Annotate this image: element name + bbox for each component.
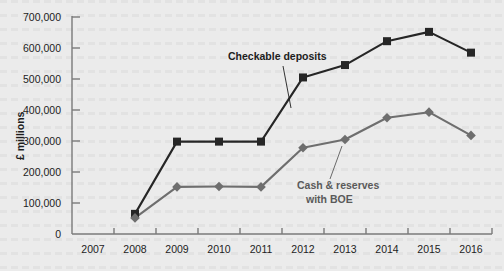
y-axis-tick-label: 600,000 [23,42,61,54]
y-axis-tick-label: 300,000 [23,135,61,147]
series-marker-diamond [424,107,434,117]
series-marker-square [383,37,391,45]
x-axis-tick-label: 2007 [81,243,105,255]
x-axis-tick-label: 2012 [291,243,315,255]
x-axis-tick-labels: 2007200820092010201120122013201420152016 [81,243,483,255]
series-marker-square [173,138,181,146]
series-marker-diamond [214,182,224,192]
annotation-label-cash-reserves-line2: with BOE [305,193,353,205]
x-axis-tick-label: 2009 [165,243,189,255]
line-chart: £ millions 0100,000200,000300,000400,000… [0,0,504,271]
annotation-label-checkable-deposits: Checkable deposits [228,50,327,62]
series-marker-square [215,138,223,146]
x-axis-tick-label: 2014 [375,243,399,255]
annotation-label-cash-reserves-line1: Cash & reserves [297,179,379,191]
series-marker-square [257,138,265,146]
series-marker-diamond [382,113,392,123]
series-marker-square [425,28,433,36]
x-axis-tick-label: 2011 [250,243,273,255]
annotation-leader-line [330,146,342,179]
y-axis-tick-label: 400,000 [23,104,61,116]
x-axis-tick-label: 2015 [417,243,441,255]
y-axis-tick-labels: 0100,000200,000300,000400,000500,000600,… [23,11,61,240]
y-axis-ticks [72,17,80,203]
y-axis-tick-label: 700,000 [23,11,61,23]
series-marker-diamond [466,131,476,141]
series-marker-diamond [340,135,350,145]
series-marker-square [467,49,475,57]
series-line-2 [135,112,471,218]
x-axis-tick-label: 2013 [333,243,357,255]
series-marker-square [341,61,349,69]
y-axis-tick-label: 500,000 [23,73,61,85]
series-marker-square [299,73,307,81]
x-axis-tick-label: 2008 [123,243,147,255]
y-axis-tick-label: 200,000 [23,166,61,178]
chart-container: £ millions 0100,000200,000300,000400,000… [0,0,504,271]
x-axis-tick-label: 2016 [459,243,483,255]
x-axis-tick-label: 2010 [207,243,231,255]
series-annotations: Checkable depositsCash & reserveswith BO… [228,50,379,205]
y-axis-tick-label: 100,000 [23,197,61,209]
x-axis-ticks [114,228,492,234]
y-axis-tick-label: 0 [55,228,61,240]
axis-spines [72,16,492,234]
